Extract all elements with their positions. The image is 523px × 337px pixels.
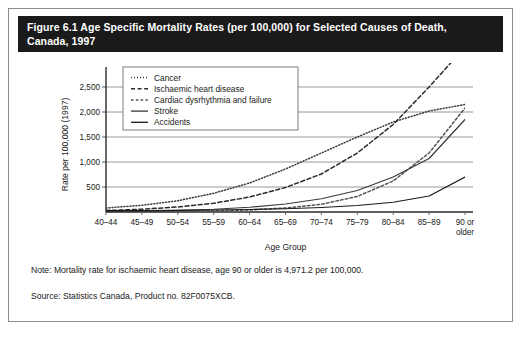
series-line-stroke — [106, 120, 465, 212]
x-tick-label: 60–64 — [238, 218, 261, 227]
figure-title-line-1: Figure 6.1 Age Specific Mortality Rates … — [27, 21, 494, 35]
y-tick-label: 2,500 — [80, 83, 101, 92]
mortality-rate-line-chart: 5001,0001,5002,0002,50040–4445–4950–5455… — [18, 55, 503, 255]
figure-title-line-2: Canada, 1997 — [27, 35, 494, 49]
x-tick-label: 70–74 — [310, 218, 333, 227]
x-tick-label: 50–54 — [166, 218, 189, 227]
y-tick-label: 500 — [86, 183, 100, 192]
x-tick-label: 75–79 — [346, 218, 369, 227]
figure-title-bar: Figure 6.1 Age Specific Mortality Rates … — [18, 16, 503, 52]
figure-panel: Figure 6.1 Age Specific Mortality Rates … — [8, 8, 513, 322]
legend-label-stroke: Stroke — [154, 106, 179, 116]
x-tick-label: 40–44 — [95, 218, 118, 227]
y-axis-title: Rate per 100,000 (1997) — [60, 98, 70, 192]
figure-notes: Note: Mortality rate for ischaemic heart… — [31, 265, 491, 302]
x-tick-label: 55–59 — [202, 218, 225, 227]
legend-label-cardiac-dysrhythmia-and-failure: Cardiac dysrhythmia and failure — [154, 95, 272, 105]
legend-label-ischaemic-heart-disease: Ischaemic heart disease — [154, 84, 245, 94]
x-tick-label: 85–89 — [418, 218, 441, 227]
legend-label-accidents: Accidents — [154, 117, 190, 127]
legend-label-cancer: Cancer — [154, 73, 181, 83]
x-tick-label: 80–84 — [382, 218, 405, 227]
y-tick-label: 1,000 — [80, 158, 101, 167]
x-axis-title: Age Group — [265, 242, 307, 252]
figure-source: Source: Statistics Canada, Product no. 8… — [31, 291, 491, 302]
figure-note: Note: Mortality rate for ischaemic heart… — [31, 265, 491, 276]
x-tick-label: 45–49 — [131, 218, 154, 227]
x-tick-label: older — [456, 228, 474, 237]
x-tick-label: 65–69 — [274, 218, 297, 227]
y-tick-label: 1,500 — [80, 133, 101, 142]
y-tick-label: 2,000 — [80, 108, 101, 117]
x-tick-label: 90 or — [456, 218, 475, 227]
chart-canvas: 5001,0001,5002,0002,50040–4445–4950–5455… — [18, 55, 503, 255]
series-line-accidents — [106, 177, 465, 211]
